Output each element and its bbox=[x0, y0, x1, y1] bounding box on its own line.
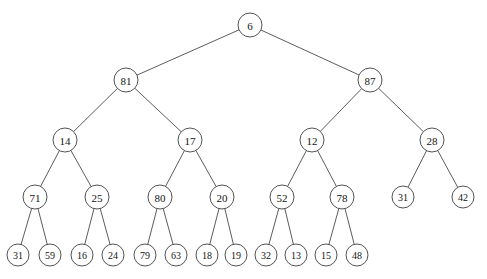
tree-node[interactable]: 17 bbox=[178, 128, 202, 152]
tree-edge bbox=[85, 209, 94, 245]
tree-node[interactable]: 48 bbox=[346, 244, 368, 266]
node-label: 31 bbox=[13, 250, 23, 261]
node-label: 15 bbox=[321, 250, 331, 261]
node-layer: 6818714171228712580205278314231591624796… bbox=[7, 13, 474, 266]
tree-edge bbox=[148, 209, 157, 245]
tree-node[interactable]: 6 bbox=[238, 13, 262, 37]
tree-node[interactable]: 20 bbox=[210, 185, 234, 209]
tree-edge bbox=[379, 88, 424, 131]
tree-node[interactable]: 42 bbox=[452, 186, 474, 208]
tree-edge bbox=[38, 209, 47, 245]
tree-node[interactable]: 13 bbox=[285, 244, 307, 266]
node-label: 32 bbox=[261, 250, 271, 261]
tree-edge bbox=[329, 209, 339, 245]
tree-edge bbox=[320, 89, 361, 132]
tree-edge bbox=[269, 209, 279, 245]
node-label: 81 bbox=[121, 75, 132, 87]
node-label: 31 bbox=[398, 192, 408, 203]
tree-edge bbox=[288, 151, 307, 187]
tree-node[interactable]: 24 bbox=[102, 244, 124, 266]
node-label: 59 bbox=[45, 250, 55, 261]
tree-edge bbox=[100, 209, 110, 245]
tree-node[interactable]: 16 bbox=[71, 244, 93, 266]
tree-canvas: 6818714171228712580205278314231591624796… bbox=[0, 0, 487, 279]
tree-node[interactable]: 79 bbox=[134, 244, 156, 266]
tree-node[interactable]: 12 bbox=[300, 128, 324, 152]
tree-edge bbox=[166, 151, 185, 187]
tree-edge bbox=[21, 209, 32, 245]
tree-node[interactable]: 28 bbox=[420, 128, 444, 152]
tree-node[interactable]: 32 bbox=[255, 244, 277, 266]
node-label: 19 bbox=[231, 250, 241, 261]
tree-edge bbox=[408, 151, 427, 188]
node-label: 18 bbox=[202, 250, 212, 261]
tree-edge bbox=[285, 209, 294, 245]
tree-edge bbox=[210, 209, 219, 245]
tree-node[interactable]: 80 bbox=[148, 185, 172, 209]
tree-edge bbox=[74, 88, 118, 131]
tree-node[interactable]: 87 bbox=[358, 68, 382, 92]
tree-node[interactable]: 18 bbox=[196, 244, 218, 266]
node-label: 16 bbox=[77, 250, 87, 261]
node-label: 63 bbox=[171, 250, 181, 261]
edge-layer bbox=[21, 30, 458, 245]
node-label: 71 bbox=[30, 192, 41, 204]
node-label: 28 bbox=[427, 135, 439, 147]
tree-node[interactable]: 71 bbox=[23, 185, 47, 209]
tree-node[interactable]: 19 bbox=[225, 244, 247, 266]
node-label: 6 bbox=[247, 20, 253, 32]
node-label: 48 bbox=[352, 250, 362, 261]
node-label: 52 bbox=[277, 192, 288, 204]
node-label: 13 bbox=[291, 250, 301, 261]
node-label: 78 bbox=[337, 192, 349, 204]
tree-node[interactable]: 14 bbox=[53, 128, 77, 152]
node-label: 87 bbox=[365, 75, 377, 87]
node-label: 17 bbox=[185, 135, 197, 147]
tree-node[interactable]: 15 bbox=[315, 244, 337, 266]
tree-edge bbox=[318, 151, 337, 187]
tree-edge bbox=[137, 30, 239, 75]
tree-node[interactable]: 59 bbox=[39, 244, 61, 266]
tree-edge bbox=[261, 30, 359, 75]
tree-node[interactable]: 31 bbox=[392, 186, 414, 208]
tree-edge bbox=[345, 209, 354, 245]
node-label: 80 bbox=[155, 192, 167, 204]
tree-edge bbox=[135, 88, 182, 132]
node-label: 20 bbox=[217, 192, 229, 204]
node-label: 24 bbox=[108, 250, 118, 261]
tree-node[interactable]: 52 bbox=[270, 185, 294, 209]
tree-node[interactable]: 31 bbox=[7, 244, 29, 266]
node-label: 12 bbox=[307, 135, 318, 147]
node-label: 14 bbox=[60, 135, 72, 147]
tree-node[interactable]: 81 bbox=[114, 68, 138, 92]
tree-edge bbox=[41, 151, 60, 187]
tree-edge bbox=[225, 209, 234, 245]
tree-node[interactable]: 63 bbox=[165, 244, 187, 266]
node-label: 79 bbox=[140, 250, 150, 261]
node-label: 42 bbox=[458, 192, 468, 203]
binary-tree-diagram: 6818714171228712580205278314231591624796… bbox=[0, 0, 487, 279]
tree-edge bbox=[163, 209, 173, 245]
tree-node[interactable]: 78 bbox=[330, 185, 354, 209]
tree-edge bbox=[438, 151, 458, 188]
tree-node[interactable]: 25 bbox=[85, 185, 109, 209]
tree-edge bbox=[196, 150, 216, 186]
tree-edge bbox=[71, 150, 91, 186]
node-label: 25 bbox=[92, 192, 104, 204]
